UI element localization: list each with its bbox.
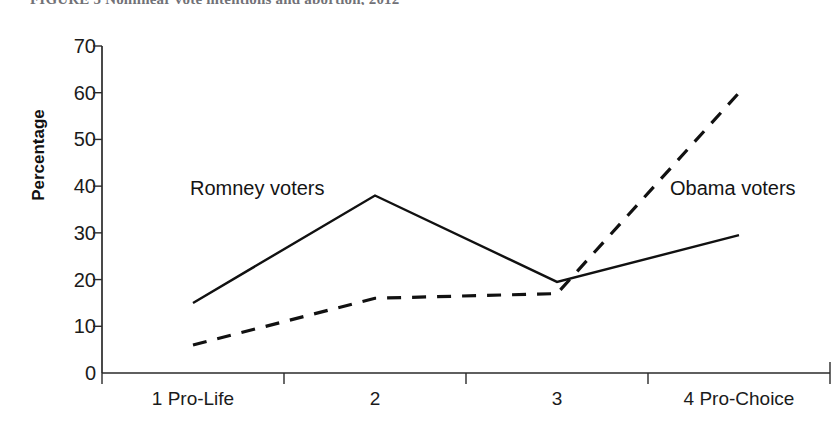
- series-label-romney: Romney voters: [188, 177, 327, 200]
- axis-lines: [93, 46, 830, 384]
- x-tick-label-2: 2: [370, 388, 381, 410]
- series-line-romney: [193, 195, 739, 302]
- x-tick-label-1: 1 Pro-Life: [152, 388, 234, 410]
- series-lines: [193, 93, 739, 345]
- x-tick-label-4: 4 Pro-Choice: [684, 388, 795, 410]
- x-tick-label-3: 3: [552, 388, 563, 410]
- series-label-obama: Obama voters: [668, 177, 798, 200]
- figure-container: FIGURE 5 Nonlinear vote intentions and a…: [0, 0, 840, 437]
- plot-area: [0, 0, 840, 437]
- series-line-obama: [193, 93, 739, 345]
